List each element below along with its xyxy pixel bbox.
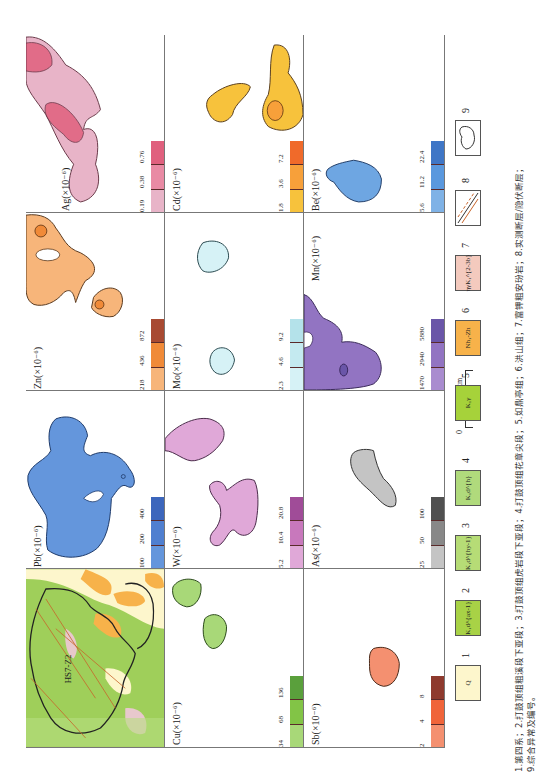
legend-item-3: K₁d^{hy-1} [455, 535, 481, 571]
zn-tick-0: 218 [138, 380, 146, 391]
pb-colorbar [151, 497, 165, 569]
panel-w: W(×10⁻⁶) 5.2 10.4 20.8 [165, 391, 304, 569]
figure-caption-line2: 9.综合异常及编号。 [524, 692, 536, 772]
geology-map: HS7-Z2 [26, 569, 164, 747]
legend-num-4: 4 [460, 458, 471, 463]
as-label: As(×10⁻⁶) [310, 525, 321, 567]
cd-colorbar [290, 141, 304, 213]
panel-as: As(×10⁻⁶) 25 50 100 [304, 391, 445, 569]
sb-tick-1: 4 [418, 720, 426, 724]
as-tick-0: 25 [418, 561, 426, 568]
mo-tick-1: 4.6 [277, 357, 285, 366]
ag-label: Ag(×10⁻⁶) [60, 168, 71, 211]
cu-tick-1: 68 [277, 716, 285, 723]
cu-tick-0: 34 [277, 740, 285, 747]
zn-label: Zn(×10⁻⁶) [32, 347, 43, 389]
w-tick-1: 10.4 [277, 532, 285, 544]
pb-tick-1: 200 [138, 534, 146, 545]
legend-item-7: ηγK₁^{2-3b} [455, 255, 481, 291]
fault-lines-icon [456, 191, 480, 225]
ag-tick-1: 0.38 [138, 176, 146, 188]
be-label: Be(×10⁻⁶) [310, 169, 321, 211]
legend-item-4: K₁d^{h} [455, 470, 481, 506]
anomaly-outline-icon [456, 121, 480, 155]
cd-tick-0: 1.8 [277, 203, 285, 212]
zn-tick-1: 436 [138, 356, 146, 367]
legend-item-9-anomaly [455, 120, 481, 156]
sb-colorbar [431, 676, 445, 748]
sb-label: Sb(×10⁻⁶) [310, 703, 321, 745]
panel-sb: Sb(×10⁻⁶) 2 4 8 [304, 569, 445, 748]
panel-cd: Cd(×10⁻⁶) 1.8 3.6 7.2 [165, 35, 304, 213]
panel-be: Be(×10⁻⁶) 5.6 11.2 22.4 [304, 35, 445, 213]
w-tick-0: 5.2 [277, 559, 285, 568]
cu-label: Cu(×10⁻⁶) [171, 702, 182, 745]
pb-label: Pb(×10⁻⁶) [32, 525, 43, 567]
panel-zn: Zn(×10⁻⁶) 218 436 872 [26, 213, 165, 391]
mn-tick-2: 5880 [418, 327, 426, 341]
cd-tick-2: 7.2 [277, 154, 285, 163]
w-label: W(×10⁻⁶) [171, 526, 182, 567]
be-tick-1: 11.2 [418, 176, 426, 188]
w-colorbar [290, 497, 304, 569]
legend-item-1: Q [455, 665, 481, 701]
figure-caption-line1: 1.第四系；2.打鼓顶组粗溪段下亚段；3.打鼓顶组虎岩段下亚段；4.打鼓顶组花章… [512, 164, 524, 772]
sb-tick-0: 2 [418, 744, 426, 748]
w-tick-2: 20.8 [277, 507, 285, 519]
legend-num-1: 1 [460, 653, 471, 658]
as-tick-2: 100 [418, 509, 426, 520]
legend-item-5: K₁γ [455, 385, 481, 421]
mo-tick-2: 9.2 [277, 332, 285, 341]
cd-label: Cd(×10⁻⁶) [171, 168, 182, 211]
pb-tick-2: 400 [138, 509, 146, 520]
mn-label: Mn(×10⁻⁶) [310, 236, 321, 281]
legend-num-9: 9 [460, 108, 471, 113]
legend-num-3: 3 [460, 523, 471, 528]
panel-geology-map: HS7-Z2 [26, 569, 165, 748]
mn-tick-1: 2940 [418, 352, 426, 366]
cd-tick-1: 3.6 [277, 179, 285, 188]
legend-item-2: K₁d^{ax-1} [455, 600, 481, 636]
panel-cu: Cu(×10⁻⁶) 34 68 136 [165, 569, 304, 748]
mn-colorbar [431, 319, 445, 391]
geology-anomaly-label: HS7-Z2 [63, 655, 73, 684]
panel-mo: Mo(×10⁻⁶) 2.3 4.6 9.2 [165, 213, 304, 391]
mo-tick-0: 2.3 [277, 381, 285, 390]
ag-tick-2: 0.76 [138, 151, 146, 163]
cu-colorbar [290, 676, 304, 748]
legend: Q 1 K₁d^{ax-1} 2 K₁d^{hy-1} 3 K₁d^{h} 4 … [455, 0, 505, 777]
panel-mn: Mn(×10⁻⁶) 1470 2940 5880 [304, 213, 445, 391]
cu-tick-2: 136 [277, 688, 285, 699]
pb-tick-0: 100 [138, 558, 146, 569]
zn-colorbar [151, 319, 165, 391]
sb-tick-2: 8 [418, 695, 426, 699]
panel-ag: Ag(×10⁻⁶) 0.19 0.38 0.76 [26, 35, 165, 213]
as-tick-1: 50 [418, 537, 426, 544]
ag-tick-0: 0.19 [138, 200, 146, 212]
mn-tick-0: 1470 [418, 376, 426, 390]
legend-num-6: 6 [460, 308, 471, 313]
be-tick-0: 5.6 [418, 203, 426, 212]
legend-num-2: 2 [460, 588, 471, 593]
mo-colorbar [290, 319, 304, 391]
legend-item-6: Nh₁-Zh [455, 320, 481, 356]
legend-num-8: 8 [460, 178, 471, 183]
legend-num-5: 5 [460, 373, 471, 378]
be-tick-2: 22.4 [418, 151, 426, 163]
ag-colorbar [151, 141, 165, 213]
legend-item-8-faults [455, 190, 481, 226]
zn-tick-2: 872 [138, 331, 146, 342]
legend-num-7: 7 [460, 243, 471, 248]
mo-label: Mo(×10⁻⁶) [171, 344, 182, 389]
as-colorbar [431, 497, 445, 569]
panel-pb: Pb(×10⁻⁶) 100 200 400 [26, 391, 165, 569]
be-colorbar [431, 141, 445, 213]
